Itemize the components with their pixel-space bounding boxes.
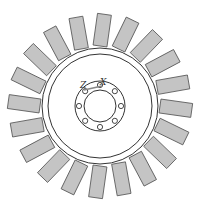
blade — [130, 30, 162, 63]
blade — [7, 95, 41, 113]
bolt-hole — [97, 124, 102, 129]
blade — [144, 136, 177, 168]
blade — [112, 162, 131, 196]
bolt-hole — [76, 103, 81, 108]
blade — [159, 99, 193, 117]
bolt-hole — [118, 103, 123, 108]
blade — [24, 43, 57, 75]
center-bore — [84, 90, 116, 122]
blade — [89, 165, 107, 199]
z-axis-label: Z — [79, 80, 87, 90]
turbine-disk-diagram: Z X — [0, 0, 198, 205]
bolt-hole — [112, 118, 117, 123]
bolt-hole — [83, 118, 88, 123]
blade — [37, 150, 69, 183]
blade — [69, 16, 88, 50]
blade — [145, 50, 180, 77]
blade — [129, 151, 156, 186]
blade — [112, 17, 139, 52]
x-axis-label: X — [99, 77, 107, 87]
blade — [61, 160, 88, 195]
blade — [11, 67, 46, 94]
bolt-hole — [112, 89, 117, 94]
blade — [44, 26, 71, 61]
blade — [156, 75, 190, 94]
blade — [93, 13, 111, 47]
blade — [154, 118, 189, 145]
blade — [20, 135, 55, 162]
blade — [10, 118, 44, 137]
